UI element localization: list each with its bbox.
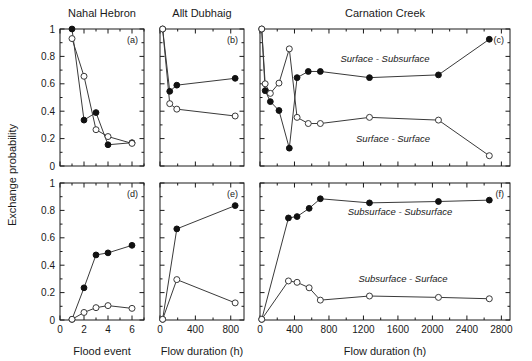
data-point-1-2 xyxy=(286,215,292,221)
data-point-1-5 xyxy=(317,196,323,202)
data-point-2-2 xyxy=(174,277,180,283)
panel-f-letter: (f) xyxy=(496,189,505,199)
series-annotation-1: Subsurface - Subsurface xyxy=(348,206,453,217)
data-point-2-1 xyxy=(259,26,265,32)
series-annotation-2: Surface - Surface xyxy=(356,133,430,144)
data-point-2-6 xyxy=(294,114,300,120)
series-line-1 xyxy=(163,206,236,320)
panel-b-y-ticks xyxy=(160,29,244,166)
series-line-2 xyxy=(163,29,236,116)
data-point-2-3 xyxy=(93,305,99,311)
panel-b-x-ticks xyxy=(160,29,231,166)
data-point-1-3 xyxy=(232,203,238,209)
series-annotation-2: Subsurface - Surface xyxy=(358,273,447,284)
panel-e-x-tick-labels: 0400800 xyxy=(157,324,239,335)
data-point-2-3 xyxy=(267,90,273,96)
data-point-1-5 xyxy=(129,242,135,248)
x-tick-label: 1600 xyxy=(387,324,410,335)
panel-f: 040080012001600200024002800(f)Subsurface… xyxy=(257,183,513,335)
data-point-2-7 xyxy=(435,294,441,300)
data-point-1-9 xyxy=(367,75,373,81)
series-line-1 xyxy=(72,29,132,145)
data-point-1-6 xyxy=(294,75,300,81)
series-line-2 xyxy=(262,281,490,319)
x-tick-label: 4 xyxy=(105,324,111,335)
panel-b-frame xyxy=(160,29,244,166)
y-tick-label: 0.8 xyxy=(41,51,55,62)
x-axis-label-2: Flow duration (h) xyxy=(161,345,244,357)
panel-a-series xyxy=(69,26,135,148)
data-point-1-4 xyxy=(105,142,111,148)
data-point-2-4 xyxy=(306,285,312,291)
panel-a-letter: (a) xyxy=(127,35,138,45)
data-point-2-10 xyxy=(435,117,441,123)
data-point-1-3 xyxy=(93,252,99,258)
series-line-2 xyxy=(163,280,236,320)
data-point-2-4 xyxy=(232,113,238,119)
data-point-2-5 xyxy=(129,305,135,311)
column-titles: Nahal HebronAllt DubhaigCarnation Creek xyxy=(68,7,425,19)
data-point-2-5 xyxy=(129,140,135,146)
column-title-3: Carnation Creek xyxy=(345,7,426,19)
x-tick-label: 6 xyxy=(129,324,135,335)
panel-e-x-ticks xyxy=(160,183,231,320)
data-point-2-8 xyxy=(486,296,492,302)
y-tick-label: 0 xyxy=(49,315,55,326)
data-point-2-11 xyxy=(486,153,492,159)
x-axis-label-3: Flow duration (h) xyxy=(344,345,427,357)
panel-c-y-ticks xyxy=(260,29,510,166)
data-point-1-4 xyxy=(232,75,238,81)
data-point-1-8 xyxy=(486,197,492,203)
data-point-1-1 xyxy=(69,26,75,32)
data-point-1-11 xyxy=(486,36,492,42)
x-tick-label: 1200 xyxy=(352,324,375,335)
x-tick-label: 0 xyxy=(57,324,63,335)
data-point-1-8 xyxy=(317,69,323,75)
data-point-2-2 xyxy=(262,81,268,87)
x-tick-label: 2400 xyxy=(456,324,479,335)
data-point-2-6 xyxy=(366,293,372,299)
panel-d-x-tick-labels: 0246 xyxy=(57,324,135,335)
data-point-1-2 xyxy=(81,285,87,291)
panel-e-y-ticks xyxy=(160,183,244,320)
data-point-2-4 xyxy=(105,134,111,140)
data-point-1-7 xyxy=(305,69,311,75)
data-point-1-6 xyxy=(367,200,373,206)
data-point-1-10 xyxy=(436,72,442,78)
data-point-2-5 xyxy=(286,46,292,52)
panel-a-y-tick-labels: 00.20.40.60.81 xyxy=(41,24,55,172)
panel-f-y-ticks xyxy=(260,183,510,320)
data-point-2-4 xyxy=(276,80,282,86)
y-tick-label: 1 xyxy=(49,24,55,35)
exchange-probability-figure: Nahal HebronAllt DubhaigCarnation CreekE… xyxy=(0,0,532,361)
data-point-2-8 xyxy=(317,121,323,127)
figure-body: Nahal HebronAllt DubhaigCarnation CreekE… xyxy=(6,7,513,357)
data-point-2-1 xyxy=(160,26,166,32)
data-point-2-9 xyxy=(366,114,372,120)
data-point-1-2 xyxy=(81,117,87,123)
figure-root: Nahal HebronAllt DubhaigCarnation CreekE… xyxy=(0,0,532,361)
panel-e: 0400800(e) xyxy=(157,183,244,335)
column-title-1: Nahal Hebron xyxy=(68,7,136,19)
x-tick-label: 800 xyxy=(321,324,338,335)
x-tick-label: 0 xyxy=(157,324,163,335)
data-point-1-4 xyxy=(276,108,282,114)
data-point-2-7 xyxy=(305,121,311,127)
data-point-2-4 xyxy=(105,303,111,309)
x-tick-label: 2 xyxy=(81,324,87,335)
y-tick-label: 0.4 xyxy=(41,260,55,271)
data-point-1-4 xyxy=(306,205,312,211)
panel-d-frame xyxy=(60,183,144,320)
data-point-2-3 xyxy=(232,300,238,306)
data-point-1-7 xyxy=(436,199,442,205)
y-tick-label: 0 xyxy=(49,161,55,172)
panel-c-frame xyxy=(260,29,510,166)
x-tick-label: 400 xyxy=(187,324,204,335)
panel-d-series xyxy=(69,242,135,322)
y-tick-label: 0.8 xyxy=(41,205,55,216)
data-point-1-5 xyxy=(286,145,292,151)
y-tick-label: 0.2 xyxy=(41,133,55,144)
series-line-1 xyxy=(163,29,236,91)
x-tick-label: 400 xyxy=(286,324,303,335)
series-line-1 xyxy=(72,245,132,319)
